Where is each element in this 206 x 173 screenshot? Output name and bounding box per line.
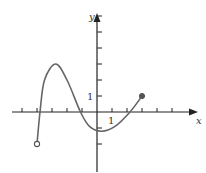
- function-curve: [37, 64, 142, 144]
- y-tick-label-1: 1: [87, 91, 93, 102]
- closed-endpoint: [139, 93, 144, 98]
- open-endpoint: [34, 141, 39, 146]
- y-axis: [94, 13, 101, 172]
- y-axis-label: y: [88, 11, 95, 22]
- y-ticks: [97, 16, 102, 144]
- x-tick-label-1: 1: [108, 115, 114, 126]
- x-axis-label: x: [196, 115, 202, 126]
- function-graph: x y 1 1: [0, 0, 206, 173]
